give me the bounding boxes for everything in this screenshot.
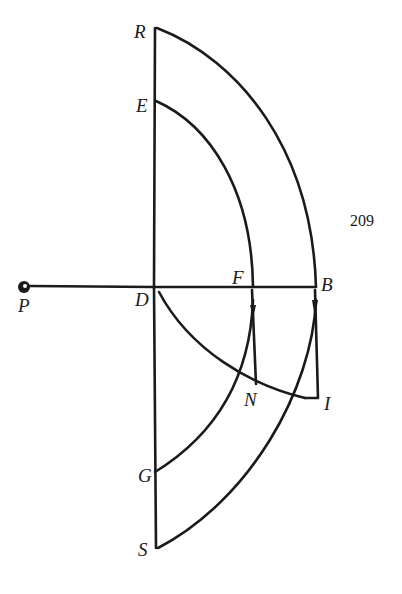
geometry-figure <box>0 0 402 594</box>
page-number: 209 <box>350 213 374 229</box>
arc-RB <box>157 28 316 287</box>
line-PB <box>30 286 316 287</box>
arc-FG <box>155 300 253 472</box>
label-S: S <box>138 540 148 559</box>
label-I: I <box>324 394 330 413</box>
label-R: R <box>134 22 146 41</box>
arc-EF <box>156 101 253 287</box>
diagram <box>0 0 402 594</box>
label-G: G <box>138 466 152 485</box>
curve-DI <box>159 292 305 398</box>
arc-BS <box>158 300 316 548</box>
label-D: D <box>135 290 149 309</box>
label-E: E <box>136 96 148 115</box>
label-B: B <box>321 275 333 294</box>
label-F: F <box>232 268 244 287</box>
label-P: P <box>18 296 30 315</box>
label-N: N <box>244 390 257 409</box>
arrow-mark-B <box>312 300 318 318</box>
